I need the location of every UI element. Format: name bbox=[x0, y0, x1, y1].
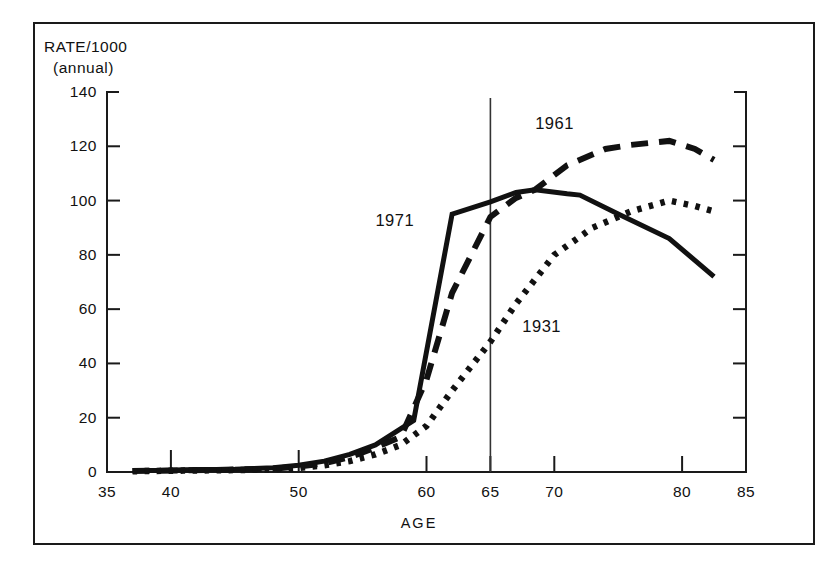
series-line-1971 bbox=[133, 190, 714, 471]
series-line-1961 bbox=[133, 141, 714, 471]
figure-container: RATE/1000 (annual) AGE 02040608010012014… bbox=[0, 0, 838, 576]
plot-area bbox=[0, 0, 838, 576]
axis-spine bbox=[107, 92, 746, 472]
series-line-1931 bbox=[133, 201, 714, 472]
